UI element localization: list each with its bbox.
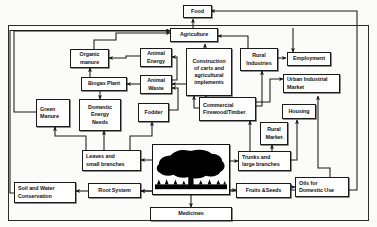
node-agriculture-label: Agriculture bbox=[173, 31, 215, 38]
node-rural-market-label: Rural Market bbox=[263, 126, 285, 140]
node-housing[interactable]: Housing bbox=[282, 104, 316, 119]
node-medicines-label: Medicines bbox=[153, 210, 229, 217]
node-employment-label: Employment bbox=[290, 55, 328, 62]
node-fruits-seeds-label: Fruits &Seeds bbox=[239, 187, 288, 194]
node-domestic-energy-needs-label: Domestic Energy Needs bbox=[82, 104, 118, 125]
node-animal-energy[interactable]: Animal Energy bbox=[140, 48, 172, 67]
node-green-manure-label: Green Manure bbox=[40, 106, 67, 120]
node-fodder-label: Fodder bbox=[141, 109, 166, 116]
node-urban-industrial-market-label: Urban Industrial Market bbox=[287, 76, 337, 90]
node-root-system[interactable]: Root System bbox=[88, 183, 141, 198]
node-rural-industries[interactable]: Rural Industries bbox=[240, 48, 278, 71]
node-urban-industrial-market[interactable]: Urban Industrial Market bbox=[283, 74, 340, 93]
node-construction[interactable]: Construction of carts and agricultural i… bbox=[186, 48, 232, 96]
node-fodder[interactable]: Fodder bbox=[138, 103, 169, 122]
node-organic-manure-label: Organic manure bbox=[73, 51, 106, 65]
node-soil-water-conservation[interactable]: Soil and Water Conservation bbox=[14, 182, 76, 203]
node-organic-manure[interactable]: Organic manure bbox=[70, 49, 109, 68]
tree-silhouette-icon bbox=[153, 145, 229, 194]
node-leaves-small-branches[interactable]: Leaves and small branches bbox=[82, 150, 141, 171]
node-employment[interactable]: Employment bbox=[287, 52, 331, 66]
node-animal-waste[interactable]: Animal Waste bbox=[140, 75, 172, 94]
node-soil-water-conservation-label: Soil and Water Conservation bbox=[18, 185, 73, 199]
node-fruits-seeds[interactable]: Fruits &Seeds bbox=[236, 183, 291, 198]
node-biogas-plant-label: Biogas Plant bbox=[84, 80, 124, 87]
node-oils-domestic-use-label: Oils for Domestic Use bbox=[299, 180, 346, 194]
node-commercial-firewood[interactable]: Commercial Firewood/Timber bbox=[199, 97, 256, 121]
node-root-system-label: Root System bbox=[91, 187, 138, 194]
node-biogas-plant[interactable]: Biogas Plant bbox=[81, 77, 127, 91]
node-trunks-large-branches-label: Trunks and large branches bbox=[242, 154, 288, 168]
node-commercial-firewood-label: Commercial Firewood/Timber bbox=[203, 102, 253, 116]
node-food-label: Food bbox=[186, 8, 209, 15]
node-food[interactable]: Food bbox=[183, 5, 212, 18]
node-animal-energy-label: Animal Energy bbox=[143, 50, 169, 64]
node-green-manure[interactable]: Green Manure bbox=[36, 99, 70, 127]
node-animal-waste-label: Animal Waste bbox=[143, 77, 169, 91]
node-construction-label: Construction of carts and agricultural i… bbox=[189, 58, 229, 87]
node-rural-industries-label: Rural Industries bbox=[243, 52, 275, 66]
node-leaves-small-branches-label: Leaves and small branches bbox=[86, 153, 138, 167]
node-agriculture[interactable]: Agriculture bbox=[170, 28, 218, 42]
node-domestic-energy-needs[interactable]: Domestic Energy Needs bbox=[79, 99, 121, 131]
node-rural-market[interactable]: Rural Market bbox=[260, 122, 288, 145]
node-trunks-large-branches[interactable]: Trunks and large branches bbox=[238, 151, 291, 171]
node-oils-domestic-use[interactable]: Oils for Domestic Use bbox=[295, 177, 349, 197]
tree-illustration-box bbox=[152, 144, 230, 195]
diagram-canvas: Food Agriculture Organic manure Animal E… bbox=[0, 0, 377, 227]
node-housing-label: Housing bbox=[285, 108, 313, 115]
node-medicines[interactable]: Medicines bbox=[150, 207, 232, 221]
